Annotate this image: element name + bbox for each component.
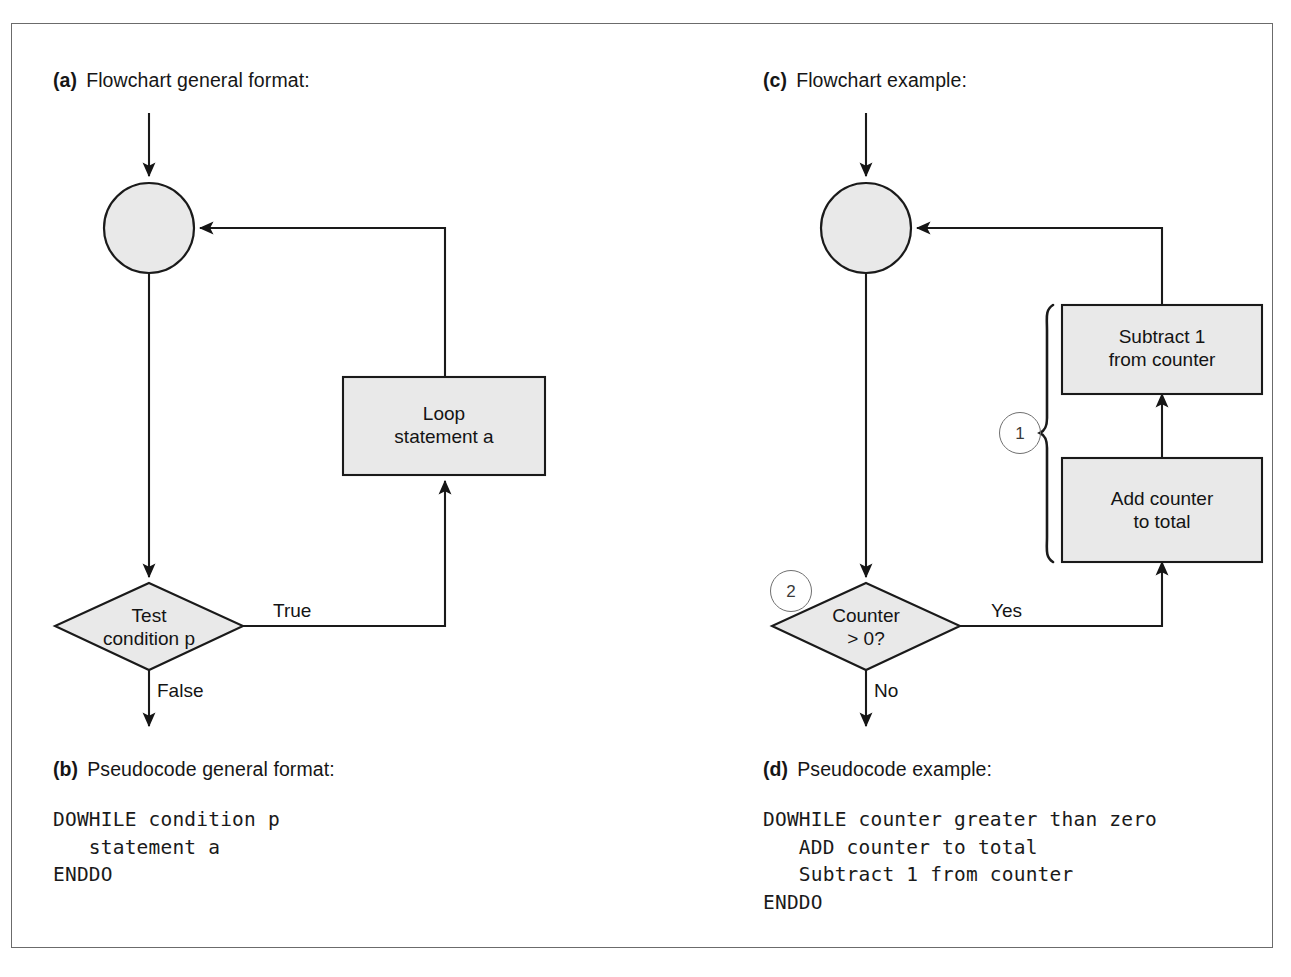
panel-c-tag: (c)	[763, 69, 787, 91]
panel-d-caption-text: Pseudocode example:	[797, 758, 992, 780]
panel-b-tag: (b)	[53, 758, 78, 780]
panel-c-caption: (c)Flowchart example:	[763, 69, 967, 92]
figure-root: (a)Flowchart general format: (c)Flowchar…	[0, 0, 1291, 977]
edge-label-yes-c: Yes	[991, 600, 1022, 622]
panel-d-tag: (d)	[763, 758, 788, 780]
panel-b-pseudocode: DOWHILE condition p statement a ENDDO	[53, 806, 280, 889]
panel-d-caption: (d)Pseudocode example:	[763, 758, 992, 781]
edge-label-false-a: False	[157, 680, 203, 702]
panel-b-caption-text: Pseudocode general format:	[87, 758, 335, 780]
step-marker-one-label: 1	[1000, 425, 1040, 442]
step-marker-two: 2	[770, 570, 812, 612]
panel-a-caption: (a)Flowchart general format:	[53, 69, 310, 92]
step-marker-two-label: 2	[771, 583, 811, 600]
edge-label-no-c: No	[874, 680, 898, 702]
panel-d-pseudocode: DOWHILE counter greater than zero ADD co…	[763, 806, 1157, 916]
panel-a-tag: (a)	[53, 69, 77, 91]
panel-b-caption: (b)Pseudocode general format:	[53, 758, 335, 781]
step-marker-one: 1	[999, 412, 1041, 454]
edge-label-true-a: True	[273, 600, 311, 622]
panel-a-caption-text: Flowchart general format:	[86, 69, 310, 91]
panel-c-caption-text: Flowchart example:	[796, 69, 967, 91]
